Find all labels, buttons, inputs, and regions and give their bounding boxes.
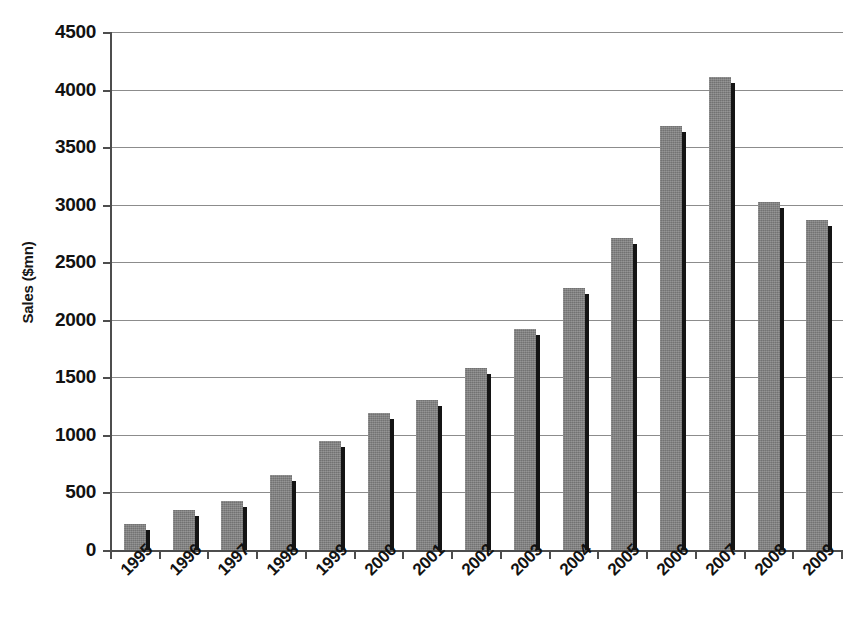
bar-shadow-edge bbox=[828, 226, 832, 550]
bar-fill bbox=[806, 220, 828, 550]
bar-chart: Sales ($mn) 0500100015002000250030003500… bbox=[0, 0, 859, 628]
x-axis-tick bbox=[792, 550, 794, 559]
x-axis-tick bbox=[207, 550, 209, 559]
bar-fill bbox=[319, 441, 341, 550]
bar-shadow-edge bbox=[682, 132, 686, 550]
bar-fill bbox=[368, 413, 390, 550]
bar-fill bbox=[465, 368, 487, 550]
bar-1998 bbox=[270, 32, 292, 550]
x-axis-tick bbox=[256, 550, 258, 559]
bar-2009 bbox=[806, 32, 828, 550]
x-axis-tick bbox=[841, 550, 843, 559]
bar-shadow-edge bbox=[487, 374, 491, 550]
bar-2000 bbox=[368, 32, 390, 550]
bar-shadow-edge bbox=[780, 208, 784, 550]
bar-2008 bbox=[758, 32, 780, 550]
bar-2001 bbox=[416, 32, 438, 550]
bar-fill bbox=[709, 77, 731, 550]
bar-fill bbox=[416, 400, 438, 550]
bar-1995 bbox=[124, 32, 146, 550]
bar-fill bbox=[563, 288, 585, 550]
y-axis-tick-label: 2500 bbox=[55, 251, 96, 273]
y-axis-tick-label: 3500 bbox=[55, 136, 96, 158]
y-axis-tick-label: 1500 bbox=[55, 366, 96, 388]
x-axis-tick bbox=[451, 550, 453, 559]
bar-2003 bbox=[514, 32, 536, 550]
y-axis-tick-label: 1000 bbox=[55, 424, 96, 446]
bar-shadow-edge bbox=[292, 481, 296, 550]
x-axis-tick bbox=[549, 550, 551, 559]
bar-1996 bbox=[173, 32, 195, 550]
bar-shadow-edge bbox=[341, 447, 345, 550]
bar-shadow-edge bbox=[536, 335, 540, 550]
x-axis-tick bbox=[646, 550, 648, 559]
x-axis-tick bbox=[402, 550, 404, 559]
x-axis-tick bbox=[744, 550, 746, 559]
y-axis-tick-label: 4000 bbox=[55, 79, 96, 101]
y-axis-tick-label: 4500 bbox=[55, 21, 96, 43]
x-axis-tick bbox=[695, 550, 697, 559]
bar-2006 bbox=[660, 32, 682, 550]
y-axis-title: Sales ($mn) bbox=[19, 193, 36, 373]
bar-fill bbox=[514, 329, 536, 550]
bar-shadow-edge bbox=[585, 294, 589, 550]
y-axis-tick-label: 500 bbox=[65, 481, 96, 503]
x-axis-tick bbox=[305, 550, 307, 559]
bar-1999 bbox=[319, 32, 341, 550]
y-axis-tick-label: 0 bbox=[86, 539, 96, 561]
bar-1997 bbox=[221, 32, 243, 550]
bar-shadow-edge bbox=[633, 244, 637, 550]
x-axis-tick bbox=[110, 550, 112, 559]
bars-layer bbox=[110, 32, 841, 550]
y-axis-tick-label: 3000 bbox=[55, 194, 96, 216]
y-axis-tick-label: 2000 bbox=[55, 309, 96, 331]
bar-fill bbox=[611, 238, 633, 550]
bar-shadow-edge bbox=[438, 406, 442, 550]
bar-2005 bbox=[611, 32, 633, 550]
x-axis-tick bbox=[597, 550, 599, 559]
x-axis-tick bbox=[159, 550, 161, 559]
bar-2004 bbox=[563, 32, 585, 550]
bar-shadow-edge bbox=[731, 83, 735, 550]
bar-fill bbox=[270, 475, 292, 550]
x-axis-tick bbox=[500, 550, 502, 559]
bar-shadow-edge bbox=[390, 419, 394, 550]
bar-2002 bbox=[465, 32, 487, 550]
bar-fill bbox=[758, 202, 780, 550]
bar-2007 bbox=[709, 32, 731, 550]
x-axis-tick bbox=[354, 550, 356, 559]
bar-fill bbox=[660, 126, 682, 550]
